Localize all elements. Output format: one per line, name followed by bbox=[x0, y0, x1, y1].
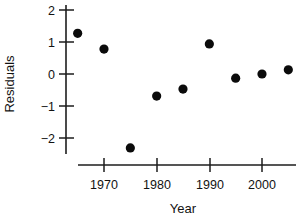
y-axis-tick-label-2: 2 bbox=[48, 4, 55, 18]
data-point bbox=[231, 74, 240, 83]
data-point bbox=[73, 29, 82, 38]
data-point bbox=[99, 44, 108, 53]
x-axis-tick-label-1970: 1970 bbox=[90, 178, 118, 192]
data-point bbox=[126, 143, 135, 152]
residuals-vs-year-scatter-chart: 2 1 0 −1 −2 1970 1980 1990 2000 Year Res… bbox=[0, 0, 296, 219]
data-point bbox=[205, 39, 214, 48]
data-point bbox=[178, 84, 187, 93]
data-points-layer bbox=[73, 29, 293, 153]
y-axis-tick-label-minus-2: −2 bbox=[41, 132, 55, 146]
y-axis-title: Residuals bbox=[2, 55, 17, 113]
x-axis-tick-label-1990: 1990 bbox=[196, 178, 224, 192]
y-axis-tick-label-1: 1 bbox=[48, 36, 55, 50]
x-axis-group: 1970 1980 1990 2000 bbox=[78, 158, 296, 192]
data-point bbox=[257, 69, 266, 78]
x-axis-tick-label-2000: 2000 bbox=[248, 178, 276, 192]
x-axis-tick-label-1980: 1980 bbox=[143, 178, 171, 192]
y-axis-group: 2 1 0 −1 −2 bbox=[41, 4, 74, 154]
x-axis-title: Year bbox=[170, 201, 197, 216]
data-point bbox=[284, 65, 293, 74]
chart-canvas: 2 1 0 −1 −2 1970 1980 1990 2000 Year Res… bbox=[0, 0, 296, 219]
y-axis-tick-label-0: 0 bbox=[48, 68, 55, 82]
y-axis-tick-label-minus-1: −1 bbox=[41, 100, 55, 114]
data-point bbox=[152, 91, 161, 100]
